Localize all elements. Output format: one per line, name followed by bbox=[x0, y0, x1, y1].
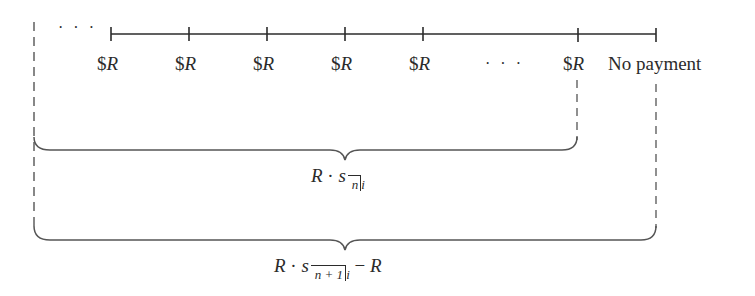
lower-brace bbox=[34, 226, 656, 250]
timeline-diagram bbox=[0, 0, 755, 296]
formula-sub-i: i bbox=[361, 177, 365, 192]
payment-label-5: $R bbox=[409, 54, 430, 73]
formula-sub-n: n bbox=[352, 177, 359, 192]
no-payment-label: No payment bbox=[608, 54, 701, 73]
formula-sub-i: i bbox=[346, 267, 350, 282]
formula-fn: s bbox=[301, 255, 308, 276]
formula-coef: R bbox=[274, 255, 286, 276]
formula-dot: · bbox=[290, 255, 296, 276]
lower-brace-formula: R · sn + 1i − R bbox=[274, 256, 382, 275]
leading-ellipsis: · · · bbox=[58, 20, 97, 36]
upper-brace bbox=[34, 137, 577, 160]
formula-dot: · bbox=[327, 165, 333, 186]
formula-minus: − bbox=[355, 255, 366, 276]
middle-ellipsis: · · · bbox=[485, 56, 524, 72]
last-payment-label: $R bbox=[563, 54, 584, 73]
payment-label-4: $R bbox=[331, 54, 352, 73]
upper-brace-formula: R · sni bbox=[311, 166, 365, 185]
formula-fn: s bbox=[338, 165, 345, 186]
formula-coef: R bbox=[311, 165, 323, 186]
payment-label-1: $R bbox=[97, 54, 118, 73]
formula-sub-n: n + 1 bbox=[315, 267, 343, 282]
payment-label-2: $R bbox=[175, 54, 196, 73]
formula-tail: R bbox=[370, 255, 382, 276]
payment-label-3: $R bbox=[253, 54, 274, 73]
